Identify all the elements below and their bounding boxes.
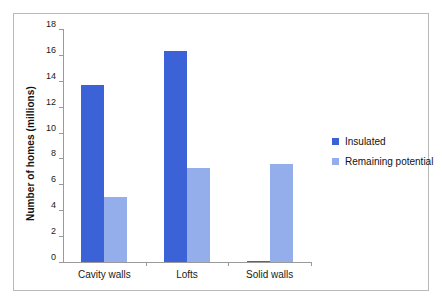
x-tick-mark	[228, 262, 229, 266]
legend-swatch-icon	[332, 138, 339, 145]
y-tick-label: 16	[46, 50, 56, 51]
y-axis-title: Number of homes (millions)	[23, 14, 37, 292]
x-axis-line	[63, 262, 311, 263]
y-tick-label: 18	[46, 24, 56, 25]
x-tick-label: Lofts	[176, 269, 198, 280]
y-tick-label: 8	[51, 153, 56, 154]
bar	[247, 261, 270, 262]
y-tick-mark	[59, 29, 63, 30]
x-tick-mark	[311, 262, 312, 266]
y-tick-mark	[59, 210, 63, 211]
bar	[187, 168, 210, 262]
bar	[164, 51, 187, 262]
legend-item: Insulated	[332, 136, 433, 147]
y-tick-mark	[59, 184, 63, 185]
y-tick-label: 12	[46, 102, 56, 103]
legend-label: Insulated	[345, 136, 386, 147]
chart-frame: Number of homes (millions) 0246810121416…	[13, 13, 429, 291]
x-tick-label: Solid walls	[246, 269, 293, 280]
y-tick-mark	[59, 236, 63, 237]
bar	[104, 197, 127, 262]
y-axis-line	[63, 29, 64, 262]
chart-legend: InsulatedRemaining potential	[332, 136, 433, 176]
y-tick-label: 4	[51, 205, 56, 206]
bar	[81, 85, 104, 262]
y-tick-mark	[59, 158, 63, 159]
y-tick-label: 2	[51, 231, 56, 232]
y-tick-mark	[59, 262, 63, 263]
x-tick-label: Cavity walls	[78, 269, 131, 280]
y-tick-mark	[59, 81, 63, 82]
legend-item: Remaining potential	[332, 156, 433, 167]
x-tick-mark	[146, 262, 147, 266]
y-tick-mark	[59, 107, 63, 108]
y-tick-mark	[59, 55, 63, 56]
y-axis-title-text: Number of homes (millions)	[25, 86, 36, 221]
legend-swatch-icon	[332, 158, 339, 165]
y-tick-label: 0	[51, 257, 56, 258]
y-tick-label: 14	[46, 76, 56, 77]
y-tick-mark	[59, 133, 63, 134]
bar	[270, 164, 293, 262]
legend-label: Remaining potential	[345, 156, 433, 167]
y-tick-label: 6	[51, 179, 56, 180]
y-tick-label: 10	[46, 128, 56, 129]
plot-area: 024681012141618 Cavity wallsLoftsSolid w…	[63, 29, 311, 262]
